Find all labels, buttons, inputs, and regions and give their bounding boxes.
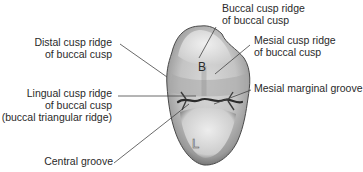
label-mesial-cusp-ridge: Mesial cusp ridge of buccal cusp: [254, 34, 336, 58]
label-lingual-cusp-ridge: Lingual cusp ridge of buccal cusp (bucca…: [2, 87, 112, 123]
label-text: Distal cusp ridge: [34, 36, 112, 48]
label-text: Lingual cusp ridge: [2, 87, 112, 99]
label-central-groove: Central groove: [44, 155, 113, 167]
label-text: Mesial cusp ridge: [254, 34, 336, 46]
leader-distal-cusp-ridge: [120, 44, 167, 77]
lingual-marker: L: [192, 136, 199, 151]
label-text: Mesial marginal groove: [254, 82, 363, 94]
label-text: of buccal cusp: [254, 46, 336, 58]
label-text: of buccal cusp: [34, 48, 112, 60]
label-text: Central groove: [44, 155, 113, 167]
label-text: (buccal triangular ridge): [2, 111, 112, 123]
label-buccal-cusp-ridge: Buccal cusp ridge of buccal cusp: [222, 2, 305, 26]
label-mesial-marginal-groove: Mesial marginal groove: [254, 82, 363, 94]
buccal-marker: B: [198, 60, 206, 74]
label-text: of buccal cusp: [2, 99, 112, 111]
label-distal-cusp-ridge: Distal cusp ridge of buccal cusp: [34, 36, 112, 60]
label-text: Buccal cusp ridge: [222, 2, 305, 14]
label-text: of buccal cusp: [222, 14, 305, 26]
